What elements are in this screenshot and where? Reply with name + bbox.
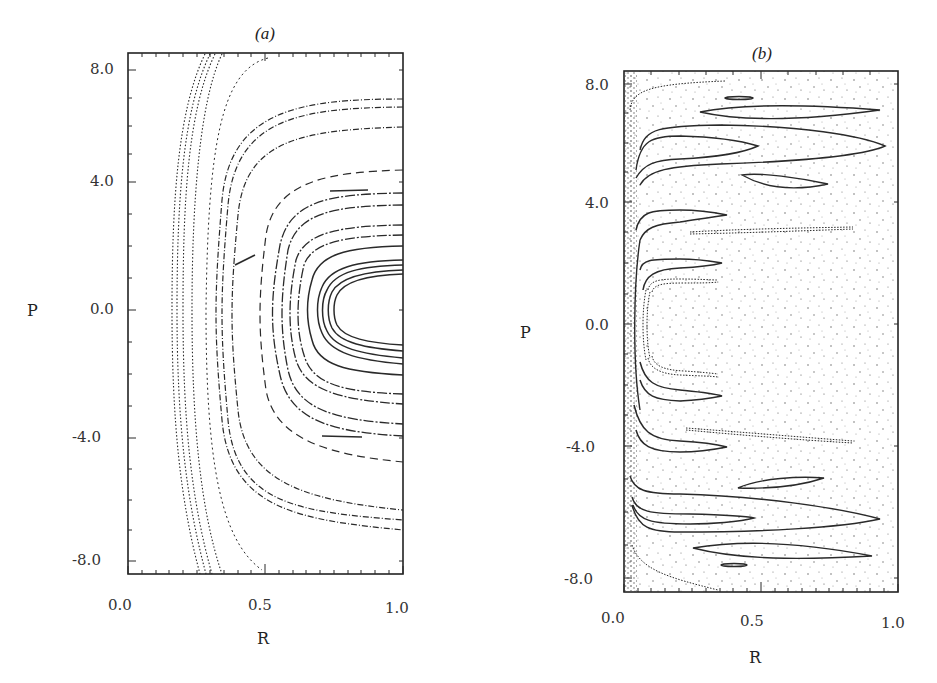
panel-a-orbits-inner xyxy=(308,246,404,375)
panel-b-plot xyxy=(624,71,898,592)
panel-a-fragments xyxy=(235,190,368,437)
panel-a-orbits-outer xyxy=(216,99,403,530)
panel-a-orbits-mid xyxy=(273,193,404,436)
panel-a-plot xyxy=(128,53,403,574)
panel-a-yticks xyxy=(128,70,403,561)
panel-a-xticks xyxy=(128,53,403,574)
panel-a-outer-orbits-2 xyxy=(206,58,268,570)
panel-a-outer-orbits xyxy=(172,54,222,574)
figure-plots xyxy=(0,0,937,683)
panel-a-frame xyxy=(128,53,403,574)
